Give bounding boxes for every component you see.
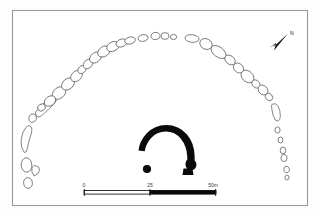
site-plan-figure: N 0 25 50m [0,0,321,217]
stone-outline [284,166,290,173]
post-hole-dot [143,165,151,173]
stone-outline [170,34,176,39]
scale-bar-segment-first [84,191,150,195]
north-arrow-label: N [290,30,294,36]
stone-outline [280,147,286,154]
stone-outline [275,127,280,133]
scale-label-start: 0 [83,182,86,188]
stone-outline [285,175,289,180]
scale-label-mid: 25 [147,182,153,188]
map-frame-border [13,11,308,206]
stone-outline [29,114,37,123]
stone-outline [281,154,287,161]
stone-outline [161,33,169,40]
scale-label-end: 50m [208,182,218,188]
scale-bar-segment-second [150,191,216,195]
feature-terminal-foot [183,169,194,176]
stone-outline [278,137,283,143]
